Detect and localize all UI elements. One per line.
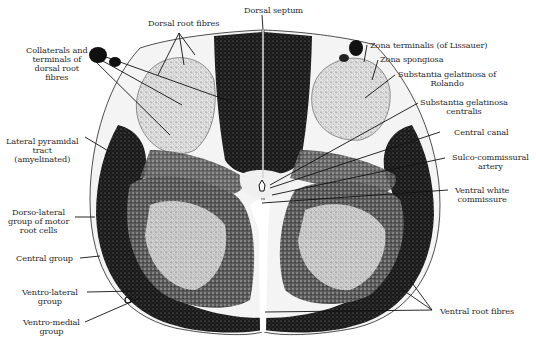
label-zona-spongiosa: Zona spongiosa [380, 55, 444, 64]
label-sulco-commissural-artery: Sulco-commissural artery [452, 153, 529, 171]
cord-left-half [89, 30, 262, 335]
label-ventro-medial-group: Ventro-medial group [23, 318, 80, 336]
label-zona-terminalis: Zona terminalis (of Lissauer) [370, 41, 487, 50]
label-ventral-root-fibres: Ventral root fibres [440, 307, 514, 316]
label-lateral-pyramidal-tract: Lateral pyramidal tract (amyelinated) [6, 137, 79, 164]
label-substantia-gelatinosa-rolando: Substantia gelatinosa of Rolando [398, 70, 496, 88]
label-substantia-gelatinosa-centralis: Substantia gelatinosa centralis [420, 98, 508, 116]
label-dorsal-septum: Dorsal septum [244, 6, 303, 15]
label-central-group: Central group [16, 254, 73, 263]
label-ventro-lateral-group: Ventro-lateral group [22, 288, 78, 306]
label-ventral-white-commissure: Ventral white commissure [455, 186, 509, 204]
label-collaterals-terminals: Collaterals and terminals of dorsal root… [26, 46, 88, 82]
label-dorsal-root-fibres: Dorsal root fibres [148, 19, 219, 28]
label-dorso-lateral-group: Dorso-lateral group of motor root cells [8, 208, 69, 235]
label-central-canal: Central canal [454, 128, 509, 137]
